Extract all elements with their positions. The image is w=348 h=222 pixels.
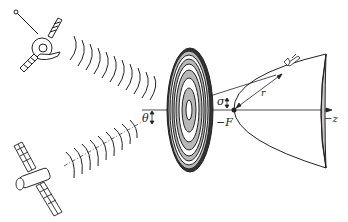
upper-satellite-icon <box>14 10 62 72</box>
radius-label: r <box>261 88 266 98</box>
focus-label: −F <box>216 116 233 129</box>
upper-signal-waves-icon <box>70 36 156 100</box>
lower-satellite-icon <box>14 142 62 216</box>
zone-plate-icon <box>167 48 213 172</box>
axis-label: −z <box>324 113 338 124</box>
radius-vector <box>236 74 282 108</box>
lower-signal-waves-icon <box>64 120 142 178</box>
spacecraft-icon <box>284 54 300 66</box>
sigma-label: σ <box>217 95 225 108</box>
theta-label: θ <box>142 112 149 125</box>
paraboloid-icon <box>234 54 326 168</box>
diagram-canvas: θ σ −F r <box>0 0 348 222</box>
